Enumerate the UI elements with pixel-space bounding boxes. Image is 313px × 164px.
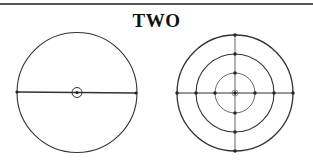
right-end-dot	[134, 91, 137, 94]
left-center-dot	[76, 91, 79, 94]
diagram-canvas	[0, 0, 313, 164]
right-figure	[175, 33, 294, 152]
left-end-dot	[15, 90, 18, 93]
left-figure	[15, 33, 137, 153]
